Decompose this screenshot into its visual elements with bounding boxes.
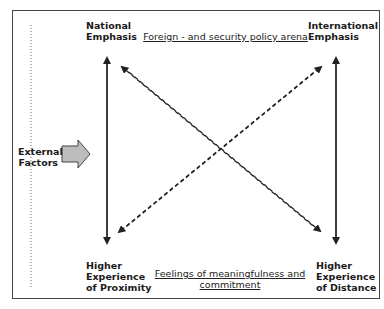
label-line: External: [18, 146, 58, 157]
label-external-factors: External Factors: [18, 146, 58, 168]
label-line: Experience: [86, 271, 151, 282]
label-line: Factors: [18, 157, 58, 168]
caption-line: Feelings of meaningfulness and: [150, 268, 310, 279]
label-higher-experience-proximity: Higher Experience of Proximity: [86, 260, 151, 293]
label-higher-experience-distance: Higher Experience of Distance: [316, 260, 377, 293]
diagram-canvas: National Emphasis Foreign - and security…: [0, 0, 384, 309]
label-international-emphasis: International Emphasis: [308, 20, 378, 42]
label-line: Experience: [316, 271, 377, 282]
caption-line: commitment: [150, 279, 310, 290]
label-line: International: [308, 20, 378, 31]
external-factors-arrow-icon: [62, 140, 90, 168]
top-caption: Foreign - and security policy arena: [143, 31, 308, 42]
bottom-caption: Feelings of meaningfulness and commitmen…: [150, 268, 310, 290]
label-line: Higher: [86, 260, 151, 271]
label-national-emphasis: National Emphasis: [86, 20, 137, 42]
label-line: National: [86, 20, 137, 31]
label-line: Higher: [316, 260, 377, 271]
label-line: of Distance: [316, 282, 377, 293]
label-line: of Proximity: [86, 282, 151, 293]
label-line: Emphasis: [86, 31, 137, 42]
label-line: Emphasis: [308, 31, 378, 42]
